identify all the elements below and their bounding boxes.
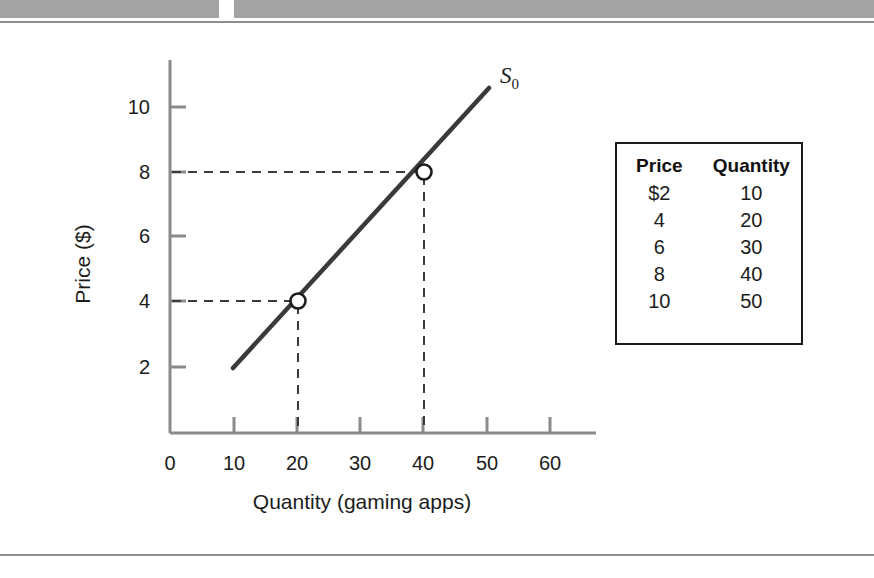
cell-price: 6 [617, 234, 702, 261]
x-tick-label-40: 40 [403, 452, 443, 475]
supply-schedule-grid: Price Quantity $2 10 4 20 6 30 8 [617, 155, 801, 315]
y-axis-ticks [170, 107, 186, 367]
x-tick-label-20: 20 [277, 452, 317, 475]
data-point-marker-q20-p4 [291, 294, 306, 309]
cell-price: 10 [617, 288, 702, 315]
x-tick-label-50: 50 [467, 452, 507, 475]
supply-curve-line [233, 88, 489, 368]
y-tick-label-2: 2 [98, 356, 150, 379]
y-tick-label-4: 4 [98, 290, 150, 313]
table-row: $2 10 [617, 180, 801, 207]
x-tick-label-10: 10 [214, 452, 254, 475]
supply-schedule-table: Price Quantity $2 10 4 20 6 30 8 [615, 142, 803, 345]
table-header-price: Price [617, 155, 702, 180]
y-tick-label-6: 6 [98, 225, 150, 248]
cell-price: 8 [617, 261, 702, 288]
supply-curve-label-subscript: 0 [512, 76, 520, 92]
cell-price: $2 [617, 180, 702, 207]
table-row: 4 20 [617, 207, 801, 234]
cell-quantity: 20 [702, 207, 801, 234]
data-point-marker-q40-p8 [417, 165, 432, 180]
supply-curve-label: S0 [500, 63, 519, 93]
y-axis-title: Price ($) [71, 174, 95, 354]
table-header-quantity: Quantity [702, 155, 801, 180]
figure-page: 2 4 6 8 10 0 10 20 30 40 50 60 Quantity … [0, 0, 874, 578]
cell-price: 4 [617, 207, 702, 234]
table-body: $2 10 4 20 6 30 8 40 10 50 [617, 180, 801, 315]
cell-quantity: 50 [702, 288, 801, 315]
cell-quantity: 10 [702, 180, 801, 207]
x-tick-label-60: 60 [530, 452, 570, 475]
y-tick-label-10: 10 [98, 96, 150, 119]
table-row: 8 40 [617, 261, 801, 288]
cell-quantity: 30 [702, 234, 801, 261]
x-axis-title: Quantity (gaming apps) [167, 490, 557, 514]
table-row: 10 50 [617, 288, 801, 315]
y-tick-label-8: 8 [98, 161, 150, 184]
table-head: Price Quantity [617, 155, 801, 180]
x-tick-label-30: 30 [340, 452, 380, 475]
table-header-row: Price Quantity [617, 155, 801, 180]
supply-curve-label-text: S [500, 63, 512, 88]
cell-quantity: 40 [702, 261, 801, 288]
x-tick-label-0: 0 [150, 452, 190, 475]
x-axis-ticks [234, 417, 550, 433]
table-row: 6 30 [617, 234, 801, 261]
